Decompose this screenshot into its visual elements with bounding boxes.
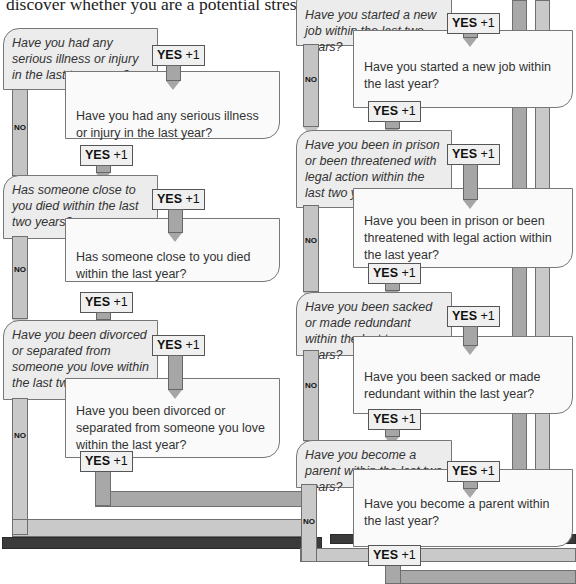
no-label: NO bbox=[304, 75, 318, 84]
yes-points: +1 bbox=[402, 104, 416, 118]
yes-label: YES bbox=[157, 48, 182, 62]
yes-points: +1 bbox=[114, 295, 128, 309]
no-path: NO bbox=[12, 236, 28, 319]
yes-button[interactable]: YES +1 bbox=[368, 409, 421, 430]
bottom-yes-connector bbox=[385, 570, 576, 584]
yes-label: YES bbox=[373, 412, 398, 426]
no-path: NO bbox=[12, 89, 28, 176]
yes-button[interactable]: YES +1 bbox=[368, 263, 421, 284]
yes-arrow bbox=[463, 481, 478, 489]
no-path: NO bbox=[301, 484, 317, 562]
yes-arrow bbox=[463, 33, 478, 38]
bottom-no-connector bbox=[300, 548, 576, 562]
yes-button[interactable]: YES +1 bbox=[447, 306, 500, 327]
yes-label: YES bbox=[373, 104, 398, 118]
yes-arrow bbox=[96, 165, 111, 173]
yes-arrow bbox=[463, 164, 478, 200]
yes-points: +1 bbox=[114, 148, 128, 162]
yes-button[interactable]: YES +1 bbox=[152, 335, 205, 356]
yes-button[interactable]: YES +1 bbox=[80, 292, 133, 313]
yes-label: YES bbox=[85, 454, 110, 468]
no-label: NO bbox=[304, 236, 318, 245]
yes-points: +1 bbox=[186, 48, 200, 62]
yes-points: +1 bbox=[481, 309, 495, 323]
yes-points: +1 bbox=[481, 147, 495, 161]
yes-points: +1 bbox=[114, 454, 128, 468]
yes-label: YES bbox=[157, 192, 182, 206]
yes-exit-connector-left bbox=[95, 491, 310, 507]
yes-arrow bbox=[168, 355, 183, 390]
yes-points: +1 bbox=[402, 412, 416, 426]
yes-label: YES bbox=[85, 148, 110, 162]
yes-arrow bbox=[385, 121, 400, 129]
yes-points: +1 bbox=[186, 338, 200, 352]
yes-label: YES bbox=[157, 338, 182, 352]
no-label: NO bbox=[302, 517, 316, 526]
no-exit-connector-left bbox=[12, 519, 312, 537]
yes-points: +1 bbox=[402, 266, 416, 280]
yes-label: YES bbox=[452, 16, 477, 30]
no-path: NO bbox=[303, 205, 319, 292]
yes-points: +1 bbox=[481, 16, 495, 30]
yes-label: YES bbox=[452, 464, 477, 478]
yes-button[interactable]: YES +1 bbox=[447, 461, 500, 482]
yes-arrow bbox=[166, 65, 181, 81]
no-label: NO bbox=[13, 265, 27, 274]
yes-arrow bbox=[168, 209, 183, 233]
no-path: NO bbox=[303, 44, 319, 127]
yes-button[interactable]: YES +1 bbox=[152, 189, 205, 210]
no-label: NO bbox=[304, 381, 318, 390]
yes-arrow bbox=[463, 326, 478, 346]
yes-button[interactable]: YES +1 bbox=[447, 144, 500, 165]
yes-label: YES bbox=[373, 548, 398, 562]
yes-button[interactable]: YES +1 bbox=[80, 451, 133, 472]
yes-arrow bbox=[385, 429, 400, 437]
yes-label: YES bbox=[452, 147, 477, 161]
yes-arrow bbox=[385, 283, 400, 291]
yes-label: YES bbox=[452, 309, 477, 323]
yes-points: +1 bbox=[186, 192, 200, 206]
yes-button[interactable]: YES +1 bbox=[80, 145, 133, 166]
yes-points: +1 bbox=[402, 548, 416, 562]
yes-button[interactable]: YES +1 bbox=[447, 13, 500, 34]
yes-button[interactable]: YES +1 bbox=[368, 545, 421, 566]
dark-connector bbox=[2, 537, 322, 549]
no-path: NO bbox=[303, 350, 319, 441]
yes-button[interactable]: YES +1 bbox=[368, 101, 421, 122]
yes-label: YES bbox=[85, 295, 110, 309]
no-label: NO bbox=[13, 123, 27, 132]
yes-exit-drop-left bbox=[95, 470, 111, 506]
yes-arrow bbox=[96, 312, 111, 320]
no-path: NO bbox=[12, 398, 28, 520]
yes-points: +1 bbox=[481, 464, 495, 478]
no-label: NO bbox=[13, 431, 27, 440]
yes-label: YES bbox=[373, 266, 398, 280]
yes-button[interactable]: YES +1 bbox=[152, 45, 205, 66]
